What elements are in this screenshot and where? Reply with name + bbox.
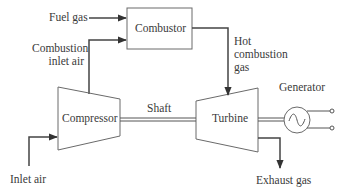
hot-gas-label-1: Hot: [234, 35, 251, 48]
hot-combustion-gas-arrow: [192, 28, 228, 95]
ac-wave-icon: [289, 114, 305, 126]
inlet-air-label: Inlet air: [10, 173, 46, 186]
inlet-air-arrow: [29, 137, 57, 166]
generator-label: Generator: [279, 81, 325, 94]
hot-gas-label-2: combustion: [234, 48, 288, 61]
exhaust-gas-label: Exhaust gas: [256, 174, 311, 187]
combustor-label: Combustor: [135, 22, 186, 35]
turbine-label: Turbine: [212, 112, 248, 125]
fuel-gas-label: Fuel gas: [49, 11, 88, 24]
exhaust-gas-arrow: [258, 138, 280, 168]
shaft-label: Shaft: [147, 102, 171, 115]
terminal-top-icon: [330, 109, 334, 113]
combustion-inlet-air-label-1: Combustion: [32, 42, 84, 55]
hot-gas-label-3: gas: [234, 61, 249, 74]
combustion-inlet-air-arrow: [89, 40, 126, 94]
compressor-label: Compressor: [62, 112, 118, 125]
combustion-inlet-air-label-2: inlet air: [32, 55, 84, 68]
terminal-bottom-icon: [330, 126, 334, 130]
